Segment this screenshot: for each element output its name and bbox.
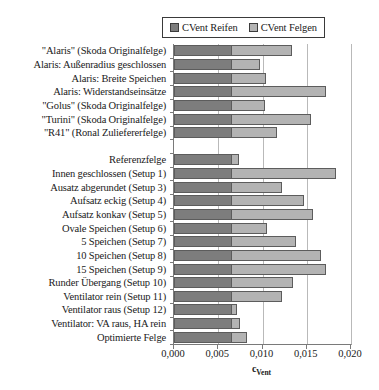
- y-axis-label: Ausatz abgerundet (Setup 3): [50, 182, 166, 193]
- bar-segment-reifen: [174, 195, 232, 206]
- y-axis-label: Ventilator: VA raus, HA rein: [51, 318, 166, 329]
- bar-segment-reifen: [174, 304, 232, 315]
- bar-segment-reifen: [174, 45, 232, 56]
- x-axis-tick-label: 0,015: [294, 348, 318, 360]
- y-axis-tick: [170, 276, 173, 277]
- legend-swatch-felgen: [249, 23, 258, 32]
- bar-segment-reifen: [174, 73, 232, 84]
- legend-label-felgen: CVent Felgen: [261, 22, 317, 33]
- y-axis-label: Alaris: Breite Speichen: [71, 73, 166, 84]
- bar-segment-reifen: [174, 250, 232, 261]
- y-axis-tick: [170, 330, 173, 331]
- bar-segment-reifen: [174, 127, 232, 138]
- y-axis-label: "R41" (Ronal Zuliefererfelge): [44, 127, 166, 138]
- y-axis-tick: [170, 262, 173, 263]
- bar-segment-reifen: [174, 209, 232, 220]
- y-axis-tick: [170, 194, 173, 195]
- y-axis-tick: [170, 85, 173, 86]
- y-axis-label: Aufsatz eckig (Setup 4): [70, 195, 166, 206]
- y-axis-label: Runder Übergang (Setup 10): [48, 277, 166, 288]
- y-axis-tick: [170, 235, 173, 236]
- y-axis-label: Innen geschlossen (Setup 1): [52, 168, 166, 179]
- bar-segment-reifen: [174, 318, 232, 329]
- y-axis-tick: [170, 303, 173, 304]
- y-axis-label: Aufsatz konkav (Setup 5): [62, 209, 166, 220]
- y-axis-tick: [170, 71, 173, 72]
- bar-segment-reifen: [174, 59, 232, 70]
- y-axis-label: Ventilator raus (Setup 12): [62, 304, 166, 315]
- y-axis-tick: [170, 180, 173, 181]
- bar-segment-reifen: [174, 236, 232, 247]
- y-axis-label: "Golus" (Skoda Originalfelge): [42, 100, 166, 111]
- legend-entry-reifen: CVent Reifen: [170, 22, 238, 33]
- bar-segment-reifen: [174, 277, 232, 288]
- bar-segment-reifen: [174, 223, 232, 234]
- y-axis-tick: [170, 317, 173, 318]
- bar-segment-reifen: [174, 332, 232, 343]
- y-axis-tick: [170, 221, 173, 222]
- y-axis-label: Optimierte Felge: [97, 332, 166, 343]
- bar-segment-reifen: [174, 100, 232, 111]
- y-axis-tick: [170, 99, 173, 100]
- y-axis-label: 5 Speichen (Setup 7): [81, 236, 166, 247]
- bar-segment-reifen: [174, 114, 232, 125]
- y-axis-label: Referenzfelge: [109, 154, 166, 165]
- y-axis-label: Ovale Speichen (Setup 6): [62, 223, 166, 234]
- y-axis-tick: [170, 289, 173, 290]
- gridline: [351, 44, 352, 344]
- chart-container: CVent Reifen CVent Felgen "Alaris" (Skod…: [0, 0, 379, 390]
- legend-swatch-reifen: [170, 23, 179, 32]
- chart-legend: CVent Reifen CVent Felgen: [162, 17, 325, 38]
- y-axis-tick: [170, 344, 173, 345]
- bar-segment-reifen: [174, 264, 232, 275]
- legend-label-reifen: CVent Reifen: [182, 22, 238, 33]
- bar-segment-reifen: [174, 291, 232, 302]
- y-axis-tick: [170, 126, 173, 127]
- bar-segment-reifen: [174, 86, 232, 97]
- x-axis-tick-label: 0,020: [338, 348, 362, 360]
- y-axis-label: Ventilator rein (Setup 11): [63, 291, 166, 302]
- y-axis-label: "Turini" (Skoda Originalfelge): [42, 114, 166, 125]
- bar-segment-reifen: [174, 154, 232, 165]
- y-axis-tick: [170, 167, 173, 168]
- legend-entry-felgen: CVent Felgen: [249, 22, 317, 33]
- y-axis-label: Alaris: Außenradius geschlossen: [34, 59, 166, 70]
- y-axis-label: "Alaris" (Skoda Originalfelge): [42, 45, 166, 56]
- y-axis-label: 15 Speichen (Setup 9): [76, 264, 166, 275]
- x-axis-tick-label: 0,000: [161, 348, 185, 360]
- y-axis-label: 10 Speichen (Setup 8): [76, 250, 166, 261]
- plot-area: [173, 44, 352, 345]
- x-axis-title: cVent: [173, 363, 350, 377]
- y-axis-tick: [170, 249, 173, 250]
- x-axis-tick-labels: 0,0000,0050,0100,0150,020: [0, 348, 379, 362]
- y-axis-tick: [170, 112, 173, 113]
- x-axis-tick-label: 0,010: [250, 348, 274, 360]
- bar-segment-reifen: [174, 168, 232, 179]
- y-axis-labels: "Alaris" (Skoda Originalfelge)Alaris: Au…: [0, 44, 170, 344]
- y-axis-tick: [170, 153, 173, 154]
- x-axis-title-subscript: Vent: [256, 368, 271, 377]
- y-axis-tick: [170, 58, 173, 59]
- y-axis-tick: [170, 208, 173, 209]
- bar-rows: [174, 44, 351, 344]
- x-axis-tick-label: 0,005: [205, 348, 229, 360]
- y-axis-label: Alaris: Widerstandseinsätze: [53, 86, 166, 97]
- y-axis-tick: [170, 139, 173, 140]
- bar-segment-reifen: [174, 182, 232, 193]
